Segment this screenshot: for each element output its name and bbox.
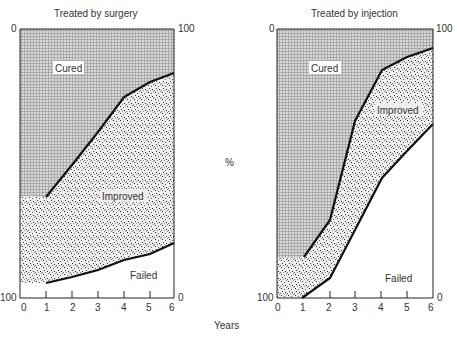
injection-label-improved: Improved (377, 105, 419, 116)
injection-chart: Cured Improved Failed (277, 29, 433, 298)
injection-label-failed: Failed (385, 273, 412, 284)
surgery-label-cured: Cured (55, 63, 82, 74)
surgery-chart: Cured Improved Failed (20, 29, 174, 298)
surgery-label-improved: Improved (102, 191, 144, 202)
injection-label-cured: Cured (311, 63, 338, 74)
surgery-label-failed: Failed (130, 270, 157, 281)
charts-canvas: Cured Improved Failed Cured Improved Fai… (0, 0, 457, 340)
